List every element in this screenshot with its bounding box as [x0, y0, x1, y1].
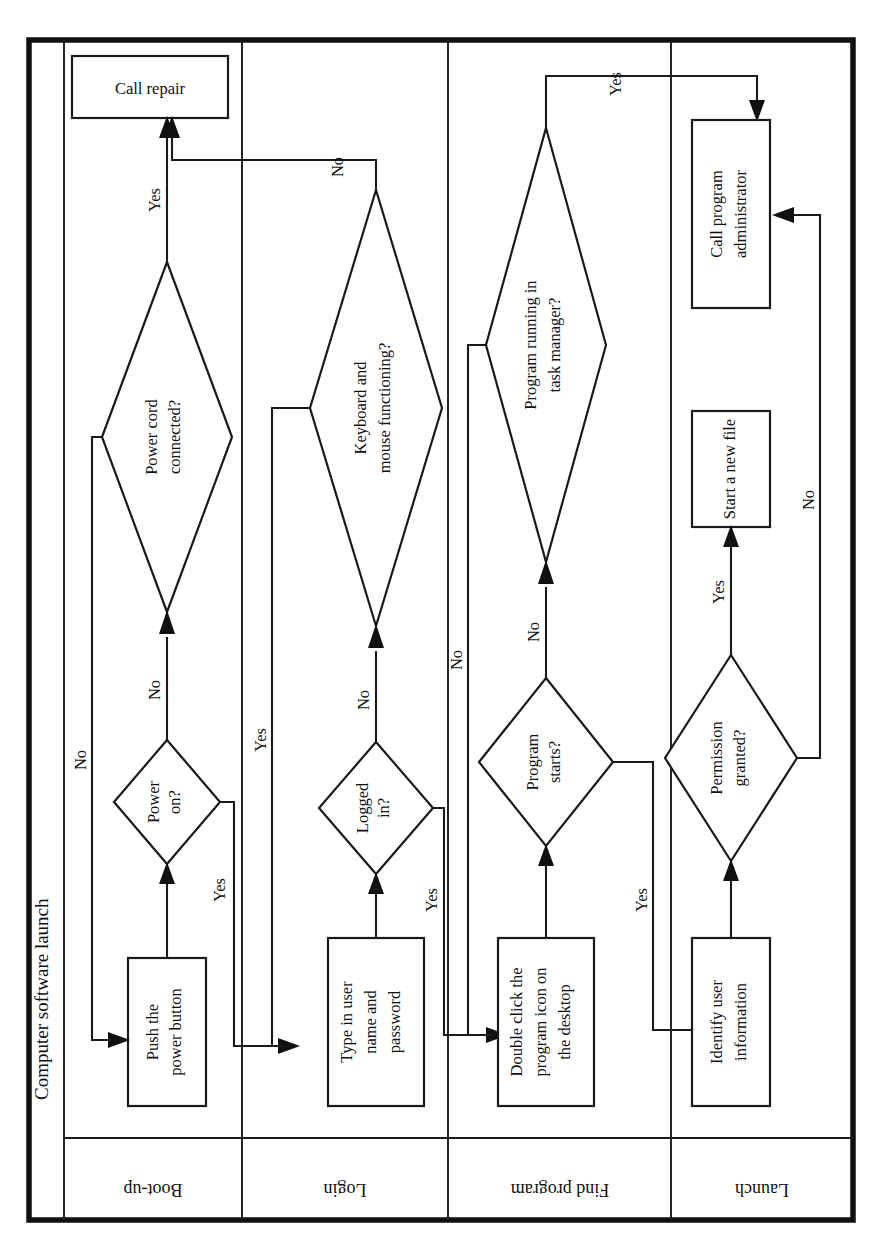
edge-label-permission-no: No: [799, 490, 818, 510]
arrowhead-logged-no: [368, 624, 384, 648]
flowchart-canvas: Computer software launch Boot-up Login F…: [0, 0, 880, 1258]
edge-label-keyboard-yes: Yes: [251, 728, 270, 752]
edge-label-logged-no: No: [354, 690, 373, 710]
edge-logged-yes: [433, 808, 492, 1035]
node-label-task-manager-line1: Program running in: [521, 280, 540, 409]
node-label-keyboard-line1: Keyboard and: [351, 361, 370, 455]
node-label-call-repair: Call repair: [115, 79, 186, 98]
edge-starts-yes: [613, 762, 700, 1030]
arrowhead-starts-no: [538, 560, 554, 584]
node-label-double-click-line1: Double click the: [507, 967, 526, 1076]
edge-label-keyboard-no: No: [328, 157, 347, 177]
node-label-call-admin-line2: administrator: [731, 170, 750, 258]
edge-label-power-cord-no: No: [71, 750, 90, 770]
node-label-keyboard-line2: mouse functioning?: [375, 343, 394, 474]
edge-label-starts-no: No: [524, 622, 543, 642]
node-label-power-cord-line1: Power cord: [142, 398, 161, 474]
node-label-permission-line1: Permission: [707, 721, 726, 794]
edge-permission-no: [787, 215, 820, 758]
arrowhead-identify-to-permission: [723, 859, 739, 881]
node-label-double-click-line3: the desktop: [555, 984, 574, 1060]
node-label-logged-in-line2: in?: [374, 798, 393, 818]
node-label-push-power-line2: power button: [166, 988, 185, 1076]
node-label-power-cord-line2: connected?: [165, 400, 184, 474]
node-label-task-manager-line2: task manager?: [545, 298, 564, 393]
node-label-power-on-line1: Power: [144, 780, 163, 823]
node-label-double-click-line2: program icon on: [531, 967, 550, 1076]
node-label-logged-in-line1: Logged: [353, 782, 372, 833]
node-label-type-creds-line1: Type in user: [337, 981, 356, 1063]
arrowhead-power-cord-no: [108, 1032, 130, 1048]
edge-label-permission-yes: Yes: [709, 580, 728, 604]
edge-label-logged-yes: Yes: [422, 888, 441, 912]
arrowhead-task-manager-yes: [749, 100, 765, 122]
edge-label-task-manager-yes: Yes: [606, 72, 625, 96]
arrowhead-power-on-no: [159, 610, 175, 634]
node-label-start-new-file: Start a new file: [720, 419, 739, 519]
edge-label-power-on-no: No: [145, 680, 164, 700]
edge-task-manager-no: [468, 345, 492, 1035]
node-label-call-admin-line1: Call program: [707, 170, 726, 258]
node-label-permission-line2: granted?: [730, 730, 749, 787]
edge-label-starts-yes: Yes: [632, 888, 651, 912]
node-label-type-creds-line3: password: [385, 990, 404, 1053]
arrowhead-type-to-logged: [368, 872, 384, 894]
edge-label-power-cord-yes: Yes: [145, 188, 164, 212]
node-label-identify-user-line1: Identify user: [707, 980, 726, 1064]
edge-keyboard-yes: [272, 408, 310, 1046]
node-label-push-power-line1: Push the: [143, 1004, 162, 1060]
edge-label-power-on-yes: Yes: [210, 878, 229, 902]
lane-label-find-program: Find program: [511, 1180, 610, 1200]
edge-power-on-yes: [220, 802, 283, 1046]
node-label-program-starts-line1: Program: [523, 733, 542, 790]
arrowhead-permission-yes: [723, 525, 739, 547]
arrowhead-permission-no: [772, 207, 794, 223]
lane-label-launch: Launch: [735, 1180, 789, 1200]
diagram-title: Computer software launch: [31, 898, 52, 1100]
node-label-program-starts-line2: starts?: [545, 741, 564, 783]
arrowhead-dblclick-to-starts: [538, 844, 554, 866]
lane-label-boot-up: Boot-up: [123, 1180, 182, 1200]
edge-label-task-manager-no: No: [447, 650, 466, 670]
arrowhead-push-to-power-on: [159, 862, 175, 884]
edge-power-cord-no: [92, 437, 115, 1040]
swimlane-flowchart: Computer software launch Boot-up Login F…: [0, 0, 880, 1258]
lane-label-login: Login: [324, 1180, 367, 1200]
node-label-power-on-line2: on?: [165, 790, 184, 814]
node-label-identify-user-line2: information: [731, 983, 750, 1061]
node-label-type-creds-line2: name and: [361, 989, 380, 1053]
